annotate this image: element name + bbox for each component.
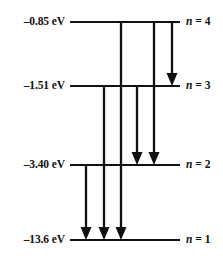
transition-arrow-n4-to-n3 <box>167 22 178 86</box>
arrowhead-n4-to-n1 <box>116 227 127 240</box>
energy-label-n4: –0.85 eV <box>24 16 65 28</box>
arrowhead-n2-to-n1 <box>81 227 92 240</box>
quantum-number-value-n3: = 3 <box>192 79 210 91</box>
transition-arrow-n3-to-n2 <box>132 86 143 165</box>
quantum-number-value-n4: = 4 <box>192 15 210 27</box>
level-label-n1: n = 1 <box>186 234 210 246</box>
energy-label-n2: –3.40 eV <box>24 159 65 171</box>
arrowhead-n4-to-n3 <box>167 73 178 86</box>
level-label-n3: n = 3 <box>186 80 210 92</box>
transition-arrow-n3-to-n1 <box>99 86 110 240</box>
transition-arrow-n4-to-n1 <box>116 22 127 240</box>
level-label-n4: n = 4 <box>186 16 210 28</box>
arrowhead-n4-to-n2 <box>149 152 160 165</box>
arrowhead-n3-to-n1 <box>99 227 110 240</box>
quantum-number-value-n2: = 2 <box>192 158 210 170</box>
transition-arrows-group <box>81 22 178 240</box>
energy-label-n1: –13.6 eV <box>24 234 65 246</box>
energy-label-n3: –1.51 eV <box>24 80 65 92</box>
transition-arrow-n4-to-n2 <box>149 22 160 165</box>
energy-level-diagram: –0.85 eV –1.51 eV –3.40 eV –13.6 eV n = … <box>0 0 223 262</box>
transition-arrow-n2-to-n1 <box>81 165 92 240</box>
quantum-number-value-n1: = 1 <box>192 233 210 245</box>
arrowhead-n3-to-n2 <box>132 152 143 165</box>
level-label-n2: n = 2 <box>186 159 210 171</box>
energy-diagram-canvas <box>0 0 223 262</box>
